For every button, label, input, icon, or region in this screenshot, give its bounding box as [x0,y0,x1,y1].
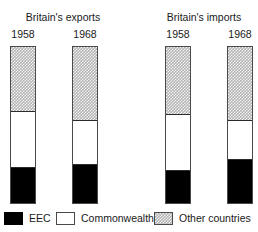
bar-segment-commonwealth [73,120,97,164]
bar-segment-other-countries [73,47,97,120]
year-label-imports-1958: 1958 [158,28,198,40]
bar-segment-eec [73,164,97,203]
bar-segment-commonwealth [11,111,35,167]
legend-label-other-countries: Other countries [179,212,251,224]
legend-label-commonwealth: Commonwealth [81,212,154,224]
bar-imports-1968 [227,46,253,204]
legend-item-commonwealth: Commonwealth [56,208,154,228]
year-label-exports-1958: 1958 [3,28,43,40]
chart-legend: EEC Commonwealth Other countries [0,208,258,232]
stacked-bar-chart: Britain's exports Britain's imports 1958… [0,0,258,232]
bar-segment-commonwealth [166,114,190,170]
bar-exports-1968 [72,46,98,204]
bar-exports-1958 [10,46,36,204]
bar-segment-commonwealth [228,120,252,159]
group-title-exports: Britain's exports [8,11,118,23]
group-title-imports: Britain's imports [150,11,258,23]
bar-imports-1958 [165,46,191,204]
bar-segment-other-countries [166,47,190,114]
legend-label-eec: EEC [29,212,51,224]
bar-segment-other-countries [228,47,252,120]
bar-segment-eec [166,170,190,203]
bar-segment-eec [228,159,252,203]
legend-swatch-eec-icon [4,212,23,225]
bar-segment-eec [11,167,35,203]
legend-item-eec: EEC [4,208,51,228]
bar-segment-other-countries [11,47,35,111]
legend-swatch-commonwealth-icon [56,212,75,225]
year-label-exports-1968: 1968 [65,28,105,40]
year-label-imports-1968: 1968 [220,28,258,40]
legend-swatch-other-countries-icon [154,212,173,225]
legend-item-other-countries: Other countries [154,208,251,228]
